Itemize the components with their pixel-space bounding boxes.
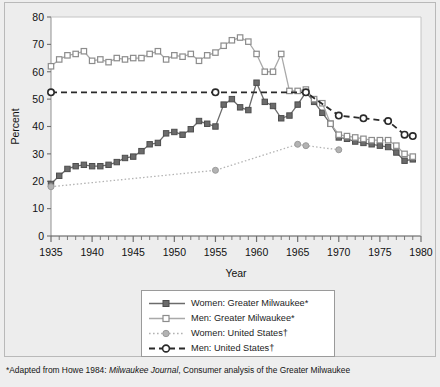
data-point bbox=[205, 121, 210, 126]
data-point bbox=[139, 148, 144, 153]
y-tick-label: 20 bbox=[32, 175, 44, 187]
data-point bbox=[196, 118, 201, 123]
legend-item[interactable]: Men: United States† bbox=[148, 341, 334, 356]
data-point bbox=[48, 89, 54, 95]
data-point bbox=[410, 133, 416, 139]
data-point bbox=[229, 38, 234, 43]
data-point bbox=[188, 51, 193, 56]
data-point bbox=[89, 58, 94, 63]
x-tick-label: 1955 bbox=[204, 246, 228, 258]
data-point bbox=[131, 154, 136, 159]
line-chart: 0102030405060708019351940194519501955196… bbox=[5, 3, 437, 283]
data-point bbox=[336, 132, 341, 137]
data-point bbox=[246, 107, 251, 112]
legend-swatch-men-milwaukee bbox=[148, 312, 186, 325]
x-axis-title: Year bbox=[225, 267, 247, 279]
data-point bbox=[188, 127, 193, 132]
plot-area bbox=[51, 17, 421, 236]
legend-label: Women: Greater Milwaukee* bbox=[191, 297, 308, 310]
data-point bbox=[385, 137, 390, 142]
data-point bbox=[279, 51, 284, 56]
legend-swatch-men-us bbox=[148, 342, 186, 355]
data-point bbox=[262, 69, 267, 74]
data-point bbox=[139, 55, 144, 60]
data-point bbox=[394, 143, 399, 148]
footnote-italic-title: Milwaukee Journal bbox=[109, 365, 178, 375]
data-point bbox=[196, 58, 201, 63]
data-point bbox=[81, 162, 86, 167]
legend-label: Women: United States† bbox=[191, 327, 288, 340]
data-point bbox=[212, 89, 218, 95]
data-point bbox=[369, 137, 374, 142]
y-tick-label: 60 bbox=[32, 66, 44, 78]
footnote-text-before: Adapted from Howe 1984: bbox=[9, 365, 109, 375]
data-point bbox=[353, 135, 358, 140]
data-point bbox=[212, 167, 218, 173]
data-point bbox=[336, 112, 342, 118]
x-tick-label: 1945 bbox=[122, 246, 146, 258]
legend-item[interactable]: Women: United States† bbox=[148, 326, 334, 341]
figure-panel: 0102030405060708019351940194519501955196… bbox=[4, 2, 436, 357]
x-tick-label: 1970 bbox=[327, 246, 351, 258]
data-point bbox=[172, 129, 177, 134]
data-point bbox=[89, 163, 94, 168]
x-tick-label: 1940 bbox=[80, 246, 104, 258]
data-point bbox=[114, 159, 119, 164]
data-point bbox=[57, 173, 62, 178]
data-point bbox=[48, 184, 54, 190]
x-tick-label: 1960 bbox=[245, 246, 269, 258]
data-point bbox=[98, 163, 103, 168]
data-point bbox=[163, 131, 168, 136]
data-point bbox=[106, 162, 111, 167]
data-point bbox=[213, 50, 218, 55]
data-point bbox=[262, 99, 267, 104]
data-point bbox=[295, 141, 301, 147]
x-tick-label: 1975 bbox=[368, 246, 392, 258]
data-point bbox=[270, 69, 275, 74]
figure-footnote: *Adapted from Howe 1984: Milwaukee Journ… bbox=[6, 365, 436, 376]
y-tick-label: 30 bbox=[32, 148, 44, 160]
legend-item[interactable]: Women: Greater Milwaukee* bbox=[148, 296, 334, 311]
data-point bbox=[180, 54, 185, 59]
y-tick-label: 70 bbox=[32, 38, 44, 50]
data-point bbox=[106, 59, 111, 64]
data-point bbox=[114, 55, 119, 60]
data-point bbox=[73, 163, 78, 168]
data-point bbox=[155, 49, 160, 54]
data-point bbox=[98, 57, 103, 62]
data-point bbox=[328, 121, 333, 126]
data-point bbox=[402, 158, 407, 163]
data-point bbox=[163, 57, 168, 62]
data-point bbox=[65, 53, 70, 58]
y-tick-label: 40 bbox=[32, 120, 44, 132]
data-point bbox=[147, 142, 152, 147]
y-tick-label: 80 bbox=[32, 11, 44, 23]
data-point bbox=[402, 151, 407, 156]
data-point bbox=[360, 115, 366, 121]
legend-item[interactable]: Men: Greater Milwaukee* bbox=[148, 311, 334, 326]
data-point bbox=[180, 132, 185, 137]
plot-area-background bbox=[51, 17, 421, 236]
legend-swatch-women-us bbox=[148, 327, 186, 340]
figure-page: 0102030405060708019351940194519501955196… bbox=[0, 0, 440, 387]
data-point bbox=[270, 103, 275, 108]
data-point bbox=[254, 80, 259, 85]
data-point bbox=[237, 105, 242, 110]
footnote-text-after: , Consumer analysis of the Greater Milwa… bbox=[178, 365, 350, 375]
data-point bbox=[377, 137, 382, 142]
data-point bbox=[172, 53, 177, 58]
data-point bbox=[237, 35, 242, 40]
data-point bbox=[303, 143, 309, 149]
data-point bbox=[73, 51, 78, 56]
chart-legend: Women: Greater Milwaukee* Men: Greater M… bbox=[141, 290, 335, 357]
data-point bbox=[48, 64, 53, 69]
y-tick-label: 50 bbox=[32, 93, 44, 105]
data-point bbox=[205, 53, 210, 58]
data-point bbox=[246, 39, 251, 44]
legend-swatch-women-milwaukee bbox=[148, 297, 186, 310]
y-tick-label: 10 bbox=[32, 202, 44, 214]
data-point bbox=[221, 43, 226, 48]
y-tick-label: 0 bbox=[38, 230, 44, 242]
data-point bbox=[65, 166, 70, 171]
legend-label: Men: Greater Milwaukee* bbox=[191, 312, 295, 325]
